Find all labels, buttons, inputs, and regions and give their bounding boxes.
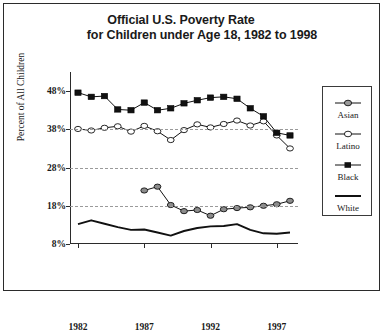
x-axis-tick — [277, 244, 278, 248]
y-axis-tick — [66, 168, 70, 169]
y-axis-tick — [66, 91, 70, 92]
x-axis-tick — [211, 244, 212, 248]
data-point-marker — [274, 130, 280, 135]
data-point-marker — [181, 101, 187, 106]
data-point-marker — [194, 207, 201, 212]
y-axis-tick-label: 48% — [30, 86, 66, 96]
x-axis-tick — [78, 244, 79, 248]
legend-marker-icon — [323, 190, 373, 202]
legend-item-black[interactable]: Black — [323, 159, 373, 182]
series-layer — [70, 72, 298, 244]
legend-label: Black — [323, 172, 373, 182]
legend-marker-icon — [323, 97, 373, 109]
y-axis-tick — [66, 244, 70, 245]
y-axis-tick-label: 28% — [30, 163, 66, 173]
legend-label: Latino — [323, 141, 373, 151]
data-point-marker — [128, 108, 134, 113]
legend-label: White — [323, 203, 373, 213]
data-point-marker — [101, 93, 107, 98]
chart-title-line-1: Official U.S. Poverty Rate — [0, 13, 386, 28]
y-axis-tick-label: 8% — [30, 239, 66, 249]
data-point-marker — [114, 124, 121, 129]
legend-marker-icon — [323, 128, 373, 140]
series-latino — [75, 118, 294, 151]
data-point-marker — [234, 118, 241, 123]
gridline — [70, 206, 298, 207]
x-axis-tick — [144, 244, 145, 248]
series-line — [78, 121, 290, 149]
gridline — [70, 168, 298, 169]
y-axis-tick — [66, 206, 70, 207]
data-point-marker — [220, 207, 227, 212]
legend-item-latino[interactable]: Latino — [323, 128, 373, 151]
legend-label: Asian — [323, 110, 373, 120]
data-point-marker — [207, 213, 214, 218]
data-point-marker — [194, 98, 200, 103]
y-axis-tick-label: 18% — [30, 201, 66, 211]
chart-legend: AsianLatinoBlackWhite — [322, 86, 372, 216]
data-point-marker — [141, 188, 148, 193]
y-axis-title: Percent of All Children — [16, 32, 26, 162]
data-point-marker — [247, 123, 254, 128]
data-point-marker — [181, 209, 188, 214]
data-point-marker — [221, 94, 227, 99]
x-axis-tick-label: 1992 — [189, 322, 233, 332]
x-axis-tick-label: 1987 — [122, 322, 166, 332]
x-axis-tick-label: 1982 — [56, 322, 100, 332]
series-asian — [141, 184, 294, 218]
data-point-marker — [75, 90, 81, 95]
series-line — [144, 187, 290, 216]
series-white — [78, 220, 290, 235]
data-point-marker — [141, 123, 148, 128]
plot-area: 1982198719921997 — [70, 72, 298, 244]
data-point-marker — [154, 184, 161, 189]
legend-item-asian[interactable]: Asian — [323, 97, 373, 120]
data-point-marker — [207, 95, 213, 100]
data-point-marker — [287, 198, 294, 203]
x-axis-tick-label: 1997 — [255, 322, 299, 332]
data-point-marker — [167, 137, 174, 142]
data-point-marker — [260, 114, 266, 119]
data-point-marker — [154, 108, 160, 113]
gridline — [70, 129, 298, 130]
data-point-marker — [287, 133, 293, 138]
data-point-marker — [287, 146, 294, 151]
y-axis-tick-label: 38% — [30, 124, 66, 134]
data-point-marker — [234, 96, 240, 101]
y-axis-tick — [66, 129, 70, 130]
legend-item-white[interactable]: White — [323, 190, 373, 213]
data-point-marker — [88, 94, 94, 99]
legend-marker-icon — [323, 159, 373, 171]
chart-title-line-2: for Children under Age 18, 1982 to 1998 — [18, 28, 386, 43]
series-line — [78, 220, 290, 235]
data-point-marker — [194, 122, 201, 127]
y-axis-tick-labels: 48%38%28%18%8% — [28, 72, 66, 244]
chart-title: Official U.S. Poverty Rate for Children … — [0, 13, 386, 43]
data-point-marker — [115, 107, 121, 112]
data-point-marker — [168, 106, 174, 111]
data-point-marker — [220, 121, 227, 126]
data-point-marker — [247, 106, 253, 111]
data-point-marker — [141, 100, 147, 105]
